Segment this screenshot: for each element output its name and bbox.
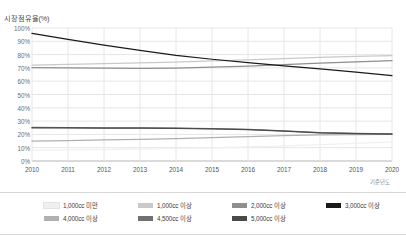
- legend-swatch: [232, 203, 247, 209]
- legend-swatch: [44, 216, 59, 222]
- legend-swatch: [44, 203, 59, 209]
- legend-swatch: [326, 203, 341, 209]
- legend-item[interactable]: 1,000cc 이상: [138, 201, 192, 210]
- market-share-chart: 시장점유율(%) 100%90%80%70%60%50%40%30%20%10%…: [0, 0, 406, 235]
- x-axis-tick-label: 2019: [349, 166, 363, 173]
- legend-item[interactable]: 4,000cc 이상: [44, 214, 98, 223]
- x-axis-tick-label: 2010: [25, 166, 39, 173]
- x-axis-tick-label: 2011: [61, 166, 75, 173]
- x-axis-tick-label: 2012: [97, 166, 111, 173]
- legend-divider-top: [0, 192, 406, 193]
- legend-label: 4,000cc 이상: [63, 214, 98, 223]
- x-axis-tick-label: 2018: [313, 166, 327, 173]
- x-axis-tick-label: 2013: [133, 166, 147, 173]
- legend-item[interactable]: 2,000cc 이상: [232, 201, 286, 210]
- legend-label: 4,500cc 이상: [157, 214, 192, 223]
- plot-svg: [0, 24, 406, 169]
- x-axis-tick-label: 2017: [277, 166, 291, 173]
- legend-label: 1,000cc 이상: [157, 201, 192, 210]
- legend-swatch: [232, 216, 247, 222]
- chart-y-axis-title: 시장점유율(%): [4, 13, 49, 23]
- x-axis-tick-label: 2014: [169, 166, 183, 173]
- x-axis-tick-label: 2016: [241, 166, 255, 173]
- legend-divider-bottom: [0, 234, 406, 235]
- plot-area: [0, 24, 406, 169]
- x-axis-tick-label: 2015: [205, 166, 219, 173]
- legend-item[interactable]: 5,000cc 이상: [232, 214, 286, 223]
- legend-item[interactable]: 1,000cc 미만: [44, 201, 98, 210]
- chart-legend: 1,000cc 미만1,000cc 이상2,000cc 이상3,000cc 이상…: [0, 192, 406, 235]
- x-axis-tick-labels: 2010201120122013201420152016201720182019…: [32, 166, 392, 180]
- legend-label: 5,000cc 이상: [251, 214, 286, 223]
- legend-swatch: [138, 203, 153, 209]
- legend-swatch: [138, 216, 153, 222]
- x-axis-tick-label: 2020: [385, 166, 399, 173]
- legend-item[interactable]: 3,000cc 이상: [326, 201, 380, 210]
- legend-item[interactable]: 4,500cc 이상: [138, 214, 192, 223]
- legend-label: 2,000cc 이상: [251, 201, 286, 210]
- legend-label: 3,000cc 이상: [345, 201, 380, 210]
- base-year-label: 기준년도: [370, 178, 390, 186]
- legend-label: 1,000cc 미만: [63, 201, 98, 210]
